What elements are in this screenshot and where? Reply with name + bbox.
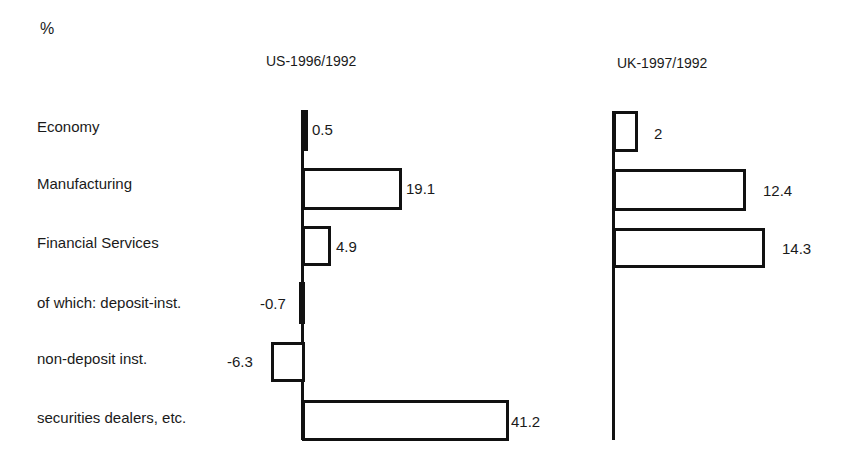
us-value-financial-services: 4.9	[336, 238, 357, 256]
us-value-economy: 0.5	[312, 121, 333, 139]
uk-bar-economy	[613, 111, 638, 152]
category-label-financial-services: Financial Services	[37, 234, 159, 252]
uk-value-manufacturing: 12.4	[763, 182, 792, 200]
us-bar-securities-dealers	[302, 400, 509, 441]
us-value-non-deposit-inst: -6.3	[227, 353, 253, 371]
uk-value-financial-services: 14.3	[782, 240, 811, 258]
us-value-securities-dealers: 41.2	[511, 413, 540, 431]
uk-panel-title: UK-1997/1992	[617, 55, 707, 71]
category-label-deposit-inst: of which: deposit-inst.	[37, 294, 181, 312]
category-label-securities-dealers: securities dealers, etc.	[37, 409, 186, 427]
us-bar-economy	[302, 110, 308, 151]
uk-value-economy: 2	[654, 125, 662, 143]
us-value-deposit-inst: -0.7	[260, 295, 286, 313]
category-label-non-deposit-inst: non-deposit inst.	[37, 350, 147, 368]
us-bar-manufacturing	[302, 168, 402, 210]
unit-label: %	[40, 20, 54, 38]
uk-bar-financial-services	[613, 228, 765, 268]
us-zero-axis	[301, 110, 304, 440]
category-label-economy: Economy	[37, 118, 100, 136]
us-panel-title: US-1996/1992	[266, 53, 356, 69]
us-value-manufacturing: 19.1	[406, 180, 435, 198]
us-bar-non-deposit-inst	[271, 342, 305, 382]
category-label-manufacturing: Manufacturing	[37, 175, 132, 193]
us-bar-deposit-inst	[299, 282, 305, 324]
uk-bar-manufacturing	[613, 169, 746, 211]
us-bar-financial-services	[302, 226, 331, 266]
uk-zero-axis	[612, 111, 615, 440]
